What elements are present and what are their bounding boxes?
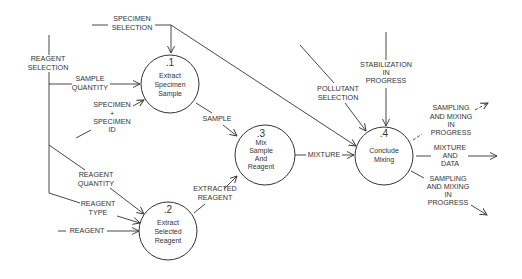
label-reagent-selection: REAGENT SELECTION <box>28 54 69 72</box>
label-reagent: REAGENT <box>70 226 105 235</box>
process-1-id: .1 <box>166 57 175 68</box>
process-3-label: Mix <box>256 139 267 146</box>
svg-text:DATA: DATA <box>441 159 459 168</box>
process-2[interactable]: .2 Extract Selected Reagent <box>139 202 197 260</box>
data-flow-diagram: .1 Extract Specimen Sample .2 Extract Se… <box>0 0 522 279</box>
svg-text:REAGENT: REAGENT <box>70 226 105 235</box>
process-2-label: Selected <box>154 228 181 235</box>
svg-text:REAGENT: REAGENT <box>79 170 114 179</box>
svg-text:REAGENT: REAGENT <box>81 199 116 208</box>
svg-text:MIXTURE: MIXTURE <box>308 150 341 159</box>
label-reagent-type: REAGENT TYPE <box>81 199 116 217</box>
label-specimen-selection: SPECIMEN SELECTION <box>112 14 153 32</box>
svg-text:SPECIMEN: SPECIMEN <box>93 100 131 109</box>
svg-text:SAMPLE: SAMPLE <box>202 114 231 123</box>
label-sampling-top: SAMPLING AND MIXING IN PROGRESS <box>430 103 473 137</box>
label-sample-quantity: SAMPLE QUANTITY <box>72 74 109 92</box>
svg-text:REAGENT: REAGENT <box>31 54 66 63</box>
process-1-label: Extract <box>159 72 181 79</box>
svg-text:SAMPLING: SAMPLING <box>432 103 470 112</box>
svg-text:PROGRESS: PROGRESS <box>431 128 472 137</box>
svg-text:SELECTION: SELECTION <box>28 63 69 72</box>
svg-text:REAGENT: REAGENT <box>198 193 233 202</box>
label-mixture-data: MIXTURE AND DATA <box>434 143 467 168</box>
svg-text:TYPE: TYPE <box>89 208 108 217</box>
svg-text:EXTRACTED: EXTRACTED <box>193 184 237 193</box>
process-1-label: Sample <box>158 90 182 98</box>
process-4-label: Conclude <box>369 147 399 154</box>
svg-text:SELECTION: SELECTION <box>112 23 153 32</box>
process-4-label: Mixing <box>374 156 394 164</box>
label-pollutant-selection: POLLUTANT SELECTION <box>317 84 359 102</box>
label-sampling-bottom: SAMPLING AND MIXING IN PROGRESS <box>427 174 470 207</box>
process-3-label: And <box>255 155 268 162</box>
process-3-id: .3 <box>257 128 266 139</box>
svg-text:ID: ID <box>108 125 115 134</box>
label-specimen-plus-id: SPECIMEN + SPECIMEN ID <box>93 100 131 134</box>
process-4-id: .4 <box>380 128 389 139</box>
svg-text:POLLUTANT: POLLUTANT <box>317 84 359 93</box>
svg-text:QUANTITY: QUANTITY <box>72 83 109 92</box>
svg-text:SPECIMEN: SPECIMEN <box>113 14 151 23</box>
label-extracted-reagent: EXTRACTED REAGENT <box>193 184 237 202</box>
process-1-label: Specimen <box>154 81 185 89</box>
process-3-label: Reagent <box>248 163 275 171</box>
svg-text:PROGRESS: PROGRESS <box>428 198 469 207</box>
svg-text:SAMPLE: SAMPLE <box>75 74 104 83</box>
svg-text:PROGRESS: PROGRESS <box>366 76 407 85</box>
process-2-id: .2 <box>164 204 173 215</box>
label-sample: SAMPLE <box>202 114 231 123</box>
process-1[interactable]: .1 Extract Specimen Sample <box>141 55 199 113</box>
label-stabilization: STABILIZATION IN PROGRESS <box>360 60 412 85</box>
process-2-label: Extract <box>157 219 179 226</box>
svg-text:SELECTION: SELECTION <box>318 93 359 102</box>
process-3[interactable]: .3 Mix Sample And Reagent <box>235 125 295 185</box>
svg-text:QUANTITY: QUANTITY <box>78 179 115 188</box>
process-3-label: Sample <box>249 147 273 155</box>
process-2-label: Reagent <box>155 237 182 245</box>
label-mixture: MIXTURE <box>308 150 341 159</box>
label-reagent-quantity: REAGENT QUANTITY <box>78 170 115 188</box>
process-4[interactable]: .4 Conclude Mixing <box>355 127 413 185</box>
